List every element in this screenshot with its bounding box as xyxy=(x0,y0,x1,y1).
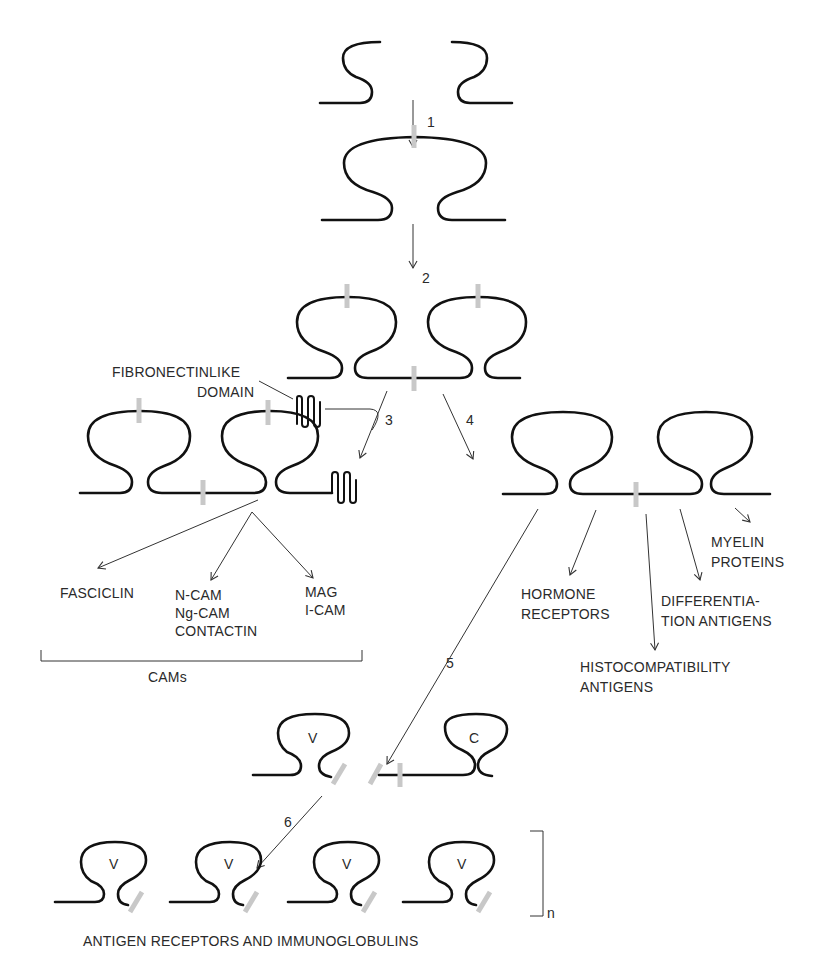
repeat-bracket xyxy=(530,831,543,916)
label-differentiation: DIFFERENTIA- xyxy=(661,593,760,609)
v-domain-4: V xyxy=(403,842,494,912)
arrow-ncam xyxy=(211,512,252,580)
v-domain-3: V xyxy=(288,842,379,912)
step-6-label: 6 xyxy=(284,814,292,830)
fibronectin-domain-icon xyxy=(332,472,356,503)
v-label: V xyxy=(109,856,119,872)
fibronectin-leader xyxy=(259,381,293,399)
label-contactin: CONTACTIN xyxy=(175,623,257,639)
step-5-label: 5 xyxy=(446,655,454,671)
arrow-histocompatibility xyxy=(646,514,655,650)
repeat-n-label: n xyxy=(547,905,555,921)
fibronectin-label-2: DOMAIN xyxy=(197,384,254,400)
arrow-step-3 xyxy=(360,391,387,458)
ig-superfamily-diagram: 1 2 FIBRONECTINLIKE DOMAIN 3 4 FASCICLIN… xyxy=(0,0,836,972)
label-icam: I-CAM xyxy=(305,602,346,618)
v-label: V xyxy=(342,856,352,872)
stage0-precursor xyxy=(320,42,512,103)
step-2-label: 2 xyxy=(422,270,430,286)
v-domain-label: V xyxy=(308,730,318,746)
fibronectin-domain-icon xyxy=(297,396,320,427)
step-4-label: 4 xyxy=(466,412,474,428)
v-label: V xyxy=(457,856,467,872)
cams-bracket xyxy=(41,650,362,661)
arrow-hormone xyxy=(570,510,596,575)
label-cams: CAMs xyxy=(148,669,187,685)
label-fasciclin: FASCICLIN xyxy=(60,585,134,601)
label-ngcam: Ng-CAM xyxy=(175,605,230,621)
stage2-two-domains xyxy=(288,284,526,391)
vc-structure: V C xyxy=(253,714,507,787)
label-myelin-proteins: PROTEINS xyxy=(711,554,784,570)
precursor-left-half xyxy=(320,42,380,103)
label-tion-antigens: TION ANTIGENS xyxy=(661,613,772,629)
label-ncam: N-CAM xyxy=(175,587,222,603)
label-antigens: ANTIGENS xyxy=(580,679,653,695)
arrow-myelin xyxy=(735,508,750,522)
arrow-mag xyxy=(252,512,313,578)
arrow-differentiation xyxy=(680,509,700,580)
label-histocompatibility: HISTOCOMPATIBILITY xyxy=(580,659,731,675)
v-label: V xyxy=(224,856,234,872)
step-1-label: 1 xyxy=(427,114,435,130)
v-domain-repeats: V V V V xyxy=(55,842,494,912)
label-hormone: HORMONE xyxy=(521,586,596,602)
bottom-caption: ANTIGEN RECEPTORS AND IMMUNOGLOBULINS xyxy=(83,933,418,949)
c-domain-label: C xyxy=(469,730,479,746)
arrow-step-5 xyxy=(387,509,538,764)
label-myelin: MYELIN xyxy=(711,534,764,550)
arrow-fasciclin xyxy=(98,500,258,568)
v-domain-1: V xyxy=(55,842,146,912)
label-mag: MAG xyxy=(305,584,338,600)
precursor-right-half xyxy=(452,42,512,103)
ig-two-domain-structure xyxy=(503,412,770,507)
v-domain-2: V xyxy=(170,842,261,912)
step-3-label: 3 xyxy=(385,412,393,428)
stage1-single-domain xyxy=(322,125,505,220)
fibronectin-insert-curve xyxy=(325,409,378,430)
arrow-step-6 xyxy=(257,796,322,868)
label-receptors: RECEPTORS xyxy=(521,606,610,622)
fibronectin-label-1: FIBRONECTINLIKE xyxy=(112,364,240,380)
